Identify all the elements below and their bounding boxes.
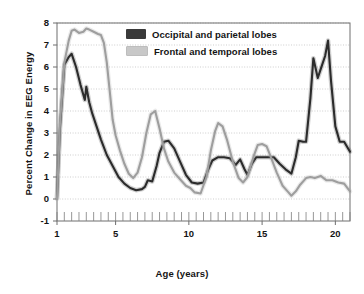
series-glow-0 <box>57 41 350 198</box>
x-tick-label: 20 <box>322 228 348 239</box>
y-tick-label: 6 <box>31 61 49 72</box>
x-axis-title: Age (years) <box>0 268 364 279</box>
x-tick-label: 5 <box>103 228 129 239</box>
legend-label-frontal-temporal: Frontal and temporal lobes <box>154 46 277 57</box>
chart-legend: Occipital and parietal lobes Frontal and… <box>126 27 277 58</box>
legend-label-occipital-parietal: Occipital and parietal lobes <box>152 29 277 40</box>
y-tick-label: -1 <box>31 215 49 226</box>
x-tick-label: 1 <box>44 228 70 239</box>
x-tick-label: 10 <box>176 228 202 239</box>
legend-swatch-dark <box>126 29 146 39</box>
y-tick-label: 1 <box>31 171 49 182</box>
x-axis-ticks <box>57 212 350 225</box>
y-tick-label: 2 <box>31 149 49 160</box>
y-tick-label: 7 <box>31 39 49 50</box>
legend-item-frontal-temporal: Frontal and temporal lobes <box>126 44 277 58</box>
y-tick-label: 8 <box>31 17 49 28</box>
legend-swatch-light <box>126 46 148 56</box>
chart-figure: Percent Change in EEG Energy Age (years)… <box>0 0 364 294</box>
y-tick-label: 0 <box>31 193 49 204</box>
legend-item-occipital-parietal: Occipital and parietal lobes <box>126 27 277 41</box>
y-tick-label: 4 <box>31 105 49 116</box>
y-tick-label: 3 <box>31 127 49 138</box>
x-tick-label: 15 <box>249 228 275 239</box>
y-tick-label: 5 <box>31 83 49 94</box>
